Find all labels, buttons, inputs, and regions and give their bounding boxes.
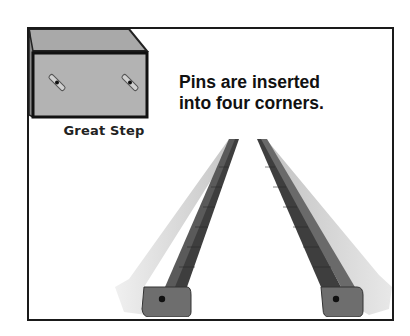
right-rail (257, 139, 392, 317)
great-step-box-image (29, 29, 169, 124)
box-caption: Great Step (44, 123, 164, 138)
instruction-line-2: into four corners. (179, 93, 399, 114)
pin-hole-icon (333, 296, 339, 302)
instruction-line-1: Pins are inserted (179, 72, 399, 93)
instruction-text: Pins are inserted into four corners. (179, 72, 399, 114)
left-rail (115, 139, 239, 317)
pin-hole-icon (159, 296, 165, 302)
illustration-frame: Great Step Pins are inserted into four c… (27, 27, 394, 321)
rails-image (109, 137, 399, 317)
